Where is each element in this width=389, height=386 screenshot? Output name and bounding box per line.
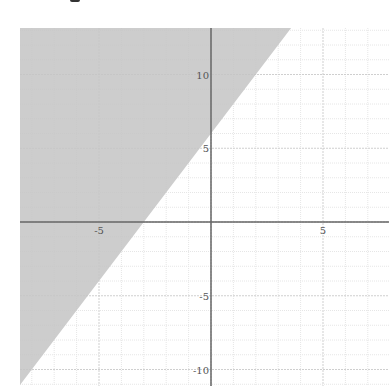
y-tick-label: 5 bbox=[203, 143, 209, 154]
y-tick-label: -5 bbox=[199, 291, 209, 302]
x-tick-label: -5 bbox=[94, 225, 104, 236]
y-tick-label: -10 bbox=[193, 365, 209, 376]
y-tick-label: 10 bbox=[196, 70, 209, 81]
inequality-graph: -55105-5-10 bbox=[0, 0, 389, 386]
x-tick-label: 5 bbox=[320, 225, 326, 236]
